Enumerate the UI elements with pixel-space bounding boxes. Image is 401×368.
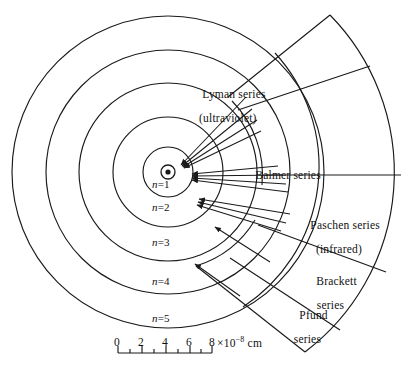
paschen-arrow-2 <box>198 202 286 223</box>
paschen-arrow-3 <box>197 205 281 231</box>
scale-unit-base: ×10 <box>217 337 236 349</box>
scale-unit-label: ×10−8 cm <box>217 336 262 349</box>
nucleus-dot <box>165 169 170 174</box>
series-label-pfund: Pfund series <box>287 297 328 368</box>
orbit-label-n3: n=3 <box>152 237 170 249</box>
orbit-label-n4-value: 4 <box>164 275 170 287</box>
orbit-label-n1-value: 1 <box>164 178 170 190</box>
series-label-paschen-name: Paschen series <box>310 219 380 231</box>
series-label-balmer-name: Balmer series <box>255 169 321 181</box>
series-label-lyman: Lyman series (ultraviolet) <box>190 76 266 148</box>
orbit-label-n2: n=2 <box>152 202 170 214</box>
orbit-label-n1: n=1 <box>152 179 170 191</box>
nucleus <box>161 165 175 179</box>
scale-unit-suffix: cm <box>245 337 263 349</box>
series-label-pfund-name: Pfund <box>299 309 327 321</box>
orbit-label-n4: n=4 <box>152 276 170 288</box>
series-label-pfund-sub: series <box>287 333 328 345</box>
series-label-paschen-sub: (infrared) <box>298 243 380 255</box>
orbit-label-n5: n=5 <box>152 313 170 325</box>
pfund-arrow-1 <box>195 264 240 296</box>
scale-tick-label-2: 2 <box>138 336 144 348</box>
scale-tick-label-8: 8 <box>209 336 215 348</box>
series-label-balmer: Balmer series <box>243 157 321 193</box>
brackett-arrow-1 <box>215 227 270 262</box>
paschen-transition-arrows <box>197 199 290 231</box>
series-label-lyman-sub: (ultraviolet) <box>190 112 266 124</box>
scale-tick-label-6: 6 <box>186 336 192 348</box>
brackett-transition-arrows <box>215 227 270 262</box>
series-label-brackett-name: Brackett <box>316 275 357 287</box>
orbit-label-n2-value: 2 <box>164 201 170 213</box>
scale-unit-exponent: −8 <box>236 335 245 344</box>
paschen-arrow-1 <box>199 199 290 214</box>
orbit-label-n5-value: 5 <box>164 312 170 324</box>
scale-tick-label-4: 4 <box>162 336 168 348</box>
series-label-lyman-name: Lyman series <box>202 88 265 100</box>
orbit-label-n3-value: 3 <box>164 236 170 248</box>
scale-tick-label-0: 0 <box>114 336 120 348</box>
paschen-sector-arc <box>196 220 255 266</box>
pfund-transition-arrows <box>195 264 240 296</box>
bohr-model-figure: n=1 n=2 n=3 n=4 n=5 Lyman series (ultrav… <box>0 0 401 368</box>
